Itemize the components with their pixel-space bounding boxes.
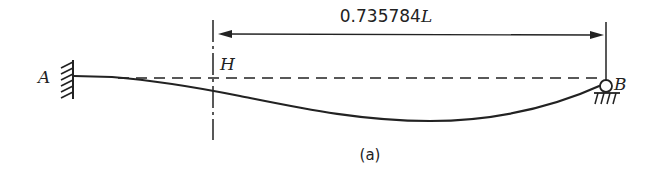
- figure-caption: (a): [360, 146, 381, 164]
- arrowhead-right-icon: [590, 31, 604, 39]
- fixed-support-a: [61, 60, 73, 99]
- beam-diagram: A H 0.735784L B (a): [0, 0, 661, 180]
- deflected-beam: [74, 76, 604, 121]
- label-h: H: [219, 54, 236, 74]
- arrowhead-left-icon: [218, 30, 232, 38]
- label-b: B: [613, 74, 627, 94]
- dimension-label: 0.735784L: [340, 6, 432, 26]
- label-a: A: [36, 67, 50, 87]
- dimension-arrow: [218, 30, 604, 39]
